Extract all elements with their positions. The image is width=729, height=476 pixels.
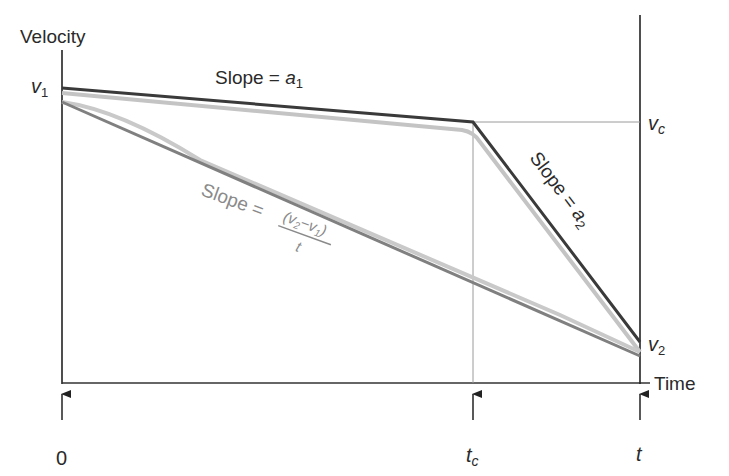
velocity-time-diagram: Velocity Time v1 vc v2 0 tc t Slope = a1… xyxy=(0,0,729,476)
tick-t-label: t xyxy=(636,443,643,465)
slope-a2-label: Slope = a2 xyxy=(523,148,595,233)
vc-label: vc xyxy=(648,112,665,137)
y-axis-label: Velocity xyxy=(20,26,86,47)
x-axis-label: Time xyxy=(654,373,696,394)
svg-text:t: t xyxy=(294,238,305,256)
v2-label: v2 xyxy=(648,333,665,358)
tick-tc-label: tc xyxy=(466,444,479,469)
slope-a1-label: Slope = a1 xyxy=(215,67,303,91)
v1-label: v1 xyxy=(31,75,48,100)
tick-0-label: 0 xyxy=(56,447,67,469)
piecewise-velocity-line xyxy=(62,88,640,342)
